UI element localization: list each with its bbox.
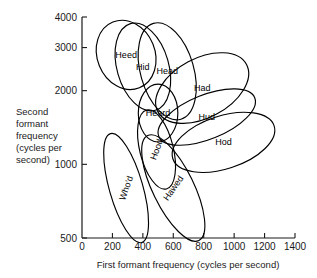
formant-chart: 5001000200030004000 02004006008001000120…: [0, 0, 317, 278]
vowel-label-group: HeedHidHeadHadHeardHudHodHoodWho'dHawed: [115, 50, 231, 202]
x-axis-title: First formant frequency (cycles per seco…: [97, 259, 280, 270]
x-tick-label: 0: [79, 241, 85, 252]
vowel-ellipse-group: [86, 11, 282, 249]
x-tick-label: 800: [195, 241, 212, 252]
y-tick-label: 3000: [55, 42, 78, 53]
y-axis-title-line: frequency: [16, 130, 58, 141]
y-axis-title-line: second): [16, 154, 50, 165]
y-tick-label: 4000: [55, 12, 78, 23]
vowel-label: Hood: [148, 138, 165, 162]
y-tick-label: 1000: [55, 159, 78, 170]
x-tick-label: 200: [104, 241, 121, 252]
vowel-formant-figure: 5001000200030004000 02004006008001000120…: [0, 0, 317, 278]
vowel-label: Hid: [136, 62, 150, 72]
y-axis-tick-labels: 5001000200030004000: [55, 12, 78, 244]
y-axis-title-line: formant: [16, 118, 49, 129]
vowel-label: Heard: [146, 108, 171, 118]
vowel-label: Hawed: [161, 174, 185, 203]
y-axis-title-line: (cycles per: [16, 142, 62, 153]
y-axis-title: Secondformantfrequency(cycles persecond): [16, 106, 62, 165]
y-tick-label: 2000: [55, 85, 78, 96]
vowel-label: Heed: [115, 50, 137, 60]
y-tick-label: 500: [60, 233, 77, 244]
x-axis-tick-labels: 0200400600800100012001400: [79, 241, 306, 252]
x-tick-label: 1400: [284, 241, 307, 252]
y-axis-title-line: Second: [16, 106, 48, 117]
vowel-label: Head: [156, 66, 178, 76]
x-tick-label: 1200: [253, 241, 276, 252]
y-axis-ticks: [82, 17, 87, 238]
vowel-label: Who'd: [117, 174, 135, 201]
vowel-label: Had: [194, 83, 211, 93]
vowel-label: Hud: [198, 112, 215, 122]
x-tick-label: 600: [165, 241, 182, 252]
x-tick-label: 1000: [223, 241, 246, 252]
vowel-label: Hod: [215, 137, 232, 147]
x-tick-label: 400: [135, 241, 152, 252]
